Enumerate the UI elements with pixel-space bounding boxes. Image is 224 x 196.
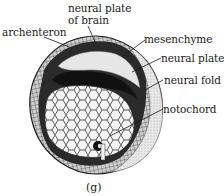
embryo-body [17,24,175,186]
label-archenteron: archenteron [2,27,66,38]
label-mesenchyme: mesenchyme [144,34,212,45]
label-neural-fold: neural fold [164,75,221,86]
label-notochord: notochord [163,104,216,115]
label-neural-plate-of-brain-line1: neural plate [68,3,131,14]
panel-label: (g) [86,182,101,193]
label-neural-plate-of-brain-line2: of brain [68,15,109,26]
label-neural-plate: neural plate [161,53,224,64]
